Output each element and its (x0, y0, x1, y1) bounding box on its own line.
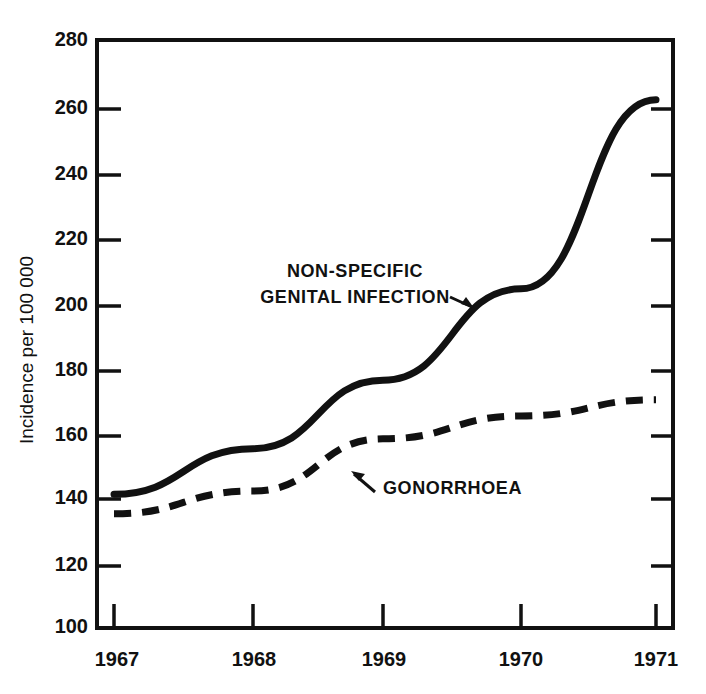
x-tick-label-1969: 1969 (362, 648, 407, 670)
x-tick-label-1971: 1971 (634, 648, 679, 670)
y-tick-label-0: 280 (55, 28, 88, 50)
y-axis-ticks-right (651, 109, 671, 566)
y-axis-ticks (97, 41, 121, 566)
annotation-gonorrhoea-arrow-icon (351, 471, 365, 481)
annotation-gonorrhoea-label: GONORRHOEA (383, 478, 522, 498)
y-tick-label-7: 140 (55, 486, 88, 508)
annotation-gonorrhoea: GONORRHOEA (351, 471, 522, 498)
y-tick-label-4: 200 (55, 293, 88, 315)
annotation-nsgi-line2: GENITAL INFECTION (260, 287, 450, 307)
y-tick-label-6: 160 (55, 423, 88, 445)
y-tick-label-3: 220 (55, 227, 88, 249)
annotation-nsgi-line1: NON-SPECIFIC (287, 261, 423, 281)
annotation-non-specific-genital-infection: NON-SPECIFIC GENITAL INFECTION (260, 261, 474, 308)
y-tick-label-8: 120 (55, 553, 88, 575)
plot-frame (97, 40, 673, 628)
chart-figure: 280 260 240 220 200 180 160 140 120 100 … (0, 0, 706, 694)
y-axis-title: Incidence per 100 000 (16, 256, 37, 444)
line-chart: 280 260 240 220 200 180 160 140 120 100 … (0, 0, 706, 694)
x-tick-label-1968: 1968 (232, 648, 277, 670)
y-tick-label-5: 180 (55, 358, 88, 380)
y-tick-label-2: 240 (55, 162, 88, 184)
x-tick-label-1970: 1970 (499, 648, 544, 670)
x-axis-tick-labels: 1967 1968 1969 1970 1971 (95, 648, 679, 670)
y-tick-label-1: 260 (55, 96, 88, 118)
y-axis-tick-labels: 280 260 240 220 200 180 160 140 120 100 (55, 28, 88, 637)
y-tick-label-9: 100 (55, 615, 88, 637)
x-axis-ticks (114, 604, 656, 626)
x-tick-label-1967: 1967 (95, 648, 140, 670)
